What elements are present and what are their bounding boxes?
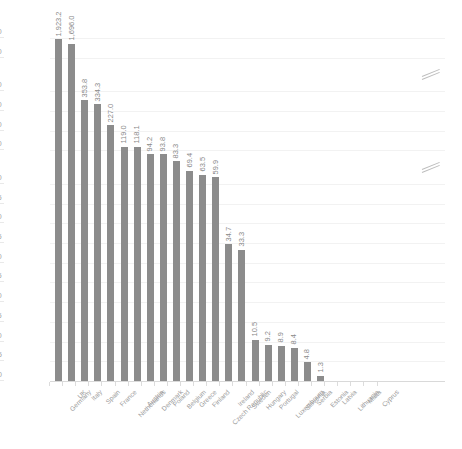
- bar-slot: 9.2: [262, 26, 275, 381]
- y-axis-tick-label: 0: [0, 370, 4, 381]
- x-axis-tick: [141, 382, 142, 386]
- x-axis-tick: [350, 382, 351, 386]
- x-axis-tick: [259, 382, 260, 386]
- bar[interactable]: [68, 44, 75, 381]
- bar[interactable]: [238, 250, 245, 381]
- x-axis-tick: [285, 382, 286, 386]
- bar-slot: 118.1: [131, 26, 144, 381]
- y-axis-tick-label: 200: [0, 120, 4, 131]
- x-axis-tick: [167, 382, 168, 386]
- bar-slot: [353, 26, 366, 381]
- bar-slot: 33.3: [235, 26, 248, 381]
- bar[interactable]: [212, 177, 219, 381]
- bar[interactable]: [173, 161, 180, 381]
- bar-slot: 59.9: [209, 26, 222, 381]
- bar-slot: [366, 26, 379, 381]
- x-axis-tick: [128, 382, 129, 386]
- bar-value-label: 119.0: [120, 125, 128, 143]
- bar-value-label: 34.7: [224, 227, 232, 242]
- bar-value-label: 93.8: [159, 137, 167, 152]
- x-axis-tick: [180, 382, 181, 386]
- bar-value-label: 334.3: [93, 82, 101, 101]
- bar-slot: 94.2: [144, 26, 157, 381]
- bar-value-label: 63.5: [198, 157, 206, 172]
- plot-area: 1,923.21,696.0353.8334.3227.0119.0118.19…: [50, 26, 445, 381]
- bar[interactable]: [134, 147, 141, 381]
- y-axis-tick-label: 15: [0, 311, 4, 322]
- x-axis-tick: [75, 382, 76, 386]
- bar[interactable]: [265, 345, 272, 381]
- x-axis-tick: [337, 382, 338, 386]
- bar-slot: 1.3: [314, 26, 327, 381]
- x-axis-tick: [49, 382, 50, 386]
- bar-value-label: 69.4: [185, 153, 193, 168]
- bar-slot: 119.0: [118, 26, 131, 381]
- bar-slot: 93.8: [157, 26, 170, 381]
- y-axis-tick-label: 45: [0, 193, 4, 204]
- bar-slot: 83.3: [170, 26, 183, 381]
- y-axis-break-marker: [422, 70, 442, 79]
- y-axis-tick-label: 20: [0, 291, 4, 302]
- bar[interactable]: [199, 175, 206, 381]
- bar-slot: 8.9: [275, 26, 288, 381]
- bar-slot: 334.3: [91, 26, 104, 381]
- x-axis-tick: [272, 382, 273, 386]
- y-axis-tick-label: 50: [0, 173, 4, 184]
- bar[interactable]: [55, 39, 62, 381]
- x-axis-tick: [206, 382, 207, 386]
- bar-slot: 353.8: [78, 26, 91, 381]
- bar-slot: 4.8: [301, 26, 314, 381]
- x-axis-tick: [88, 382, 89, 386]
- x-axis-category-label: Cyprus: [382, 389, 401, 408]
- x-axis-line: [50, 381, 445, 382]
- y-axis-tick-label: 2,000: [0, 27, 4, 38]
- bar-value-label: 33.3: [237, 232, 245, 247]
- bar-slot: 8.4: [288, 26, 301, 381]
- bar-slot: 34.7: [222, 26, 235, 381]
- y-axis-tick-label: 40: [0, 212, 4, 223]
- bar[interactable]: [225, 244, 232, 381]
- x-axis-tick: [232, 382, 233, 386]
- bar[interactable]: [160, 154, 167, 381]
- x-axis-category-label: France: [119, 389, 138, 408]
- y-axis-tick-label: 400: [0, 80, 4, 91]
- bar[interactable]: [291, 348, 298, 381]
- bar-value-label: 10.5: [251, 322, 259, 337]
- y-axis-tick-label: 1,000: [0, 47, 4, 58]
- bar-slot: 10.5: [249, 26, 262, 381]
- x-axis-tick: [377, 382, 378, 386]
- y-axis-tick-label: 5: [0, 350, 4, 361]
- bar[interactable]: [147, 154, 154, 381]
- bar-value-label: 59.9: [211, 160, 219, 175]
- bar-series: 1,923.21,696.0353.8334.3227.0119.0118.19…: [50, 26, 445, 381]
- bar[interactable]: [81, 100, 88, 381]
- x-axis-tick: [324, 382, 325, 386]
- bar[interactable]: [278, 346, 285, 381]
- x-axis-tick: [193, 382, 194, 386]
- bar[interactable]: [186, 171, 193, 381]
- bar[interactable]: [121, 147, 128, 381]
- bar-slot: [327, 26, 340, 381]
- bar[interactable]: [252, 340, 259, 381]
- bar-value-label: 227.0: [106, 103, 114, 122]
- bar-value-label: 1,923.2: [54, 11, 62, 36]
- bar-value-label: 1.3: [316, 362, 324, 372]
- bar-value-label: 8.9: [277, 332, 285, 342]
- bar-value-label: 118.1: [133, 126, 141, 144]
- bar[interactable]: [94, 104, 101, 381]
- bar-value-label: 4.8: [303, 349, 311, 359]
- y-axis-tick-label: 300: [0, 100, 4, 111]
- x-axis-tick: [62, 382, 63, 386]
- bar-value-label: 83.3: [172, 144, 180, 159]
- bar-chart: 1,923.21,696.0353.8334.3227.0119.0118.19…: [0, 0, 462, 449]
- bar-value-label: 94.2: [146, 137, 154, 152]
- bar[interactable]: [107, 125, 114, 381]
- bar-slot: 63.5: [196, 26, 209, 381]
- bar[interactable]: [304, 362, 311, 381]
- bar-slot: 1,923.2: [52, 26, 65, 381]
- y-axis-break-marker: [422, 163, 442, 172]
- bar-value-label: 9.2: [264, 331, 272, 341]
- x-axis-category-label: Italy: [91, 389, 104, 402]
- x-axis-tick: [115, 382, 116, 386]
- bar-value-label: 8.4: [290, 334, 298, 344]
